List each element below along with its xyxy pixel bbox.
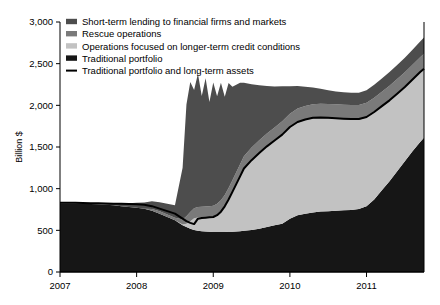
y-tick-label: 2,500 <box>29 58 53 69</box>
legend-label: Short-term lending to financial firms an… <box>82 16 287 27</box>
legend-swatch <box>66 31 77 36</box>
x-tick-label: 2007 <box>49 280 70 291</box>
legend-swatch <box>66 55 77 60</box>
legend-label: Rescue operations <box>82 28 161 39</box>
y-tick-label: 2,000 <box>29 100 53 111</box>
legend-swatch <box>66 43 77 48</box>
legend-swatch <box>66 19 77 24</box>
x-tick-label: 2008 <box>126 280 147 291</box>
y-tick-label: 1,000 <box>29 183 53 194</box>
y-tick-label: 1,500 <box>29 141 53 152</box>
x-tick-label: 2010 <box>279 280 300 291</box>
federal-reserve-balance-sheet-area-chart: 05001,0001,5002,0002,5003,00020072008200… <box>0 0 440 305</box>
x-tick-label: 2011 <box>356 280 376 291</box>
y-axis-title: Billion $ <box>14 131 24 163</box>
chart-figure: 05001,0001,5002,0002,5003,00020072008200… <box>0 0 440 305</box>
y-axis-title-group: Billion $ <box>14 131 24 163</box>
y-tick-label: 0 <box>48 266 53 277</box>
y-tick-label: 3,000 <box>29 16 53 27</box>
legend-label: Operations focused on longer-term credit… <box>82 41 300 52</box>
legend-line-marker <box>66 70 77 72</box>
x-tick-label: 2009 <box>203 280 224 291</box>
legend-label: Traditional portfolio <box>82 53 162 64</box>
legend-label: Traditional portfolio and long-term asse… <box>82 65 254 76</box>
y-tick-label: 500 <box>37 225 53 236</box>
